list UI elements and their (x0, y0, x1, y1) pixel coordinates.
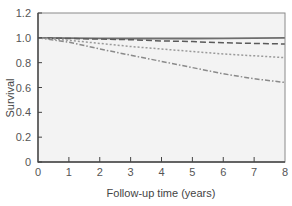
x-tick-label: 1 (66, 166, 72, 178)
y-tick-label: 1.0 (16, 32, 31, 44)
x-axis-label: Follow-up time (years) (107, 187, 216, 199)
x-tick-label: 0 (35, 166, 41, 178)
x-tick-label: 5 (189, 166, 195, 178)
y-tick-label: 0.4 (16, 106, 31, 118)
y-axis-label: Survival (4, 78, 16, 117)
x-tick-label: 3 (128, 166, 134, 178)
x-tick-label: 2 (97, 166, 103, 178)
y-tick-label: 1.2 (16, 7, 31, 19)
y-tick-label: 0.6 (16, 82, 31, 94)
y-tick-label: 0.8 (16, 57, 31, 69)
y-tick-label: 0 (25, 156, 31, 168)
plot-area (38, 13, 285, 162)
y-tick-label: 0.2 (16, 131, 31, 143)
x-tick-label: 8 (282, 166, 288, 178)
survival-chart: 00.20.40.60.81.01.2 012345678 Survival F… (0, 0, 292, 206)
x-tick-label: 6 (220, 166, 226, 178)
x-tick-label: 4 (158, 166, 164, 178)
x-tick-label: 7 (251, 166, 257, 178)
